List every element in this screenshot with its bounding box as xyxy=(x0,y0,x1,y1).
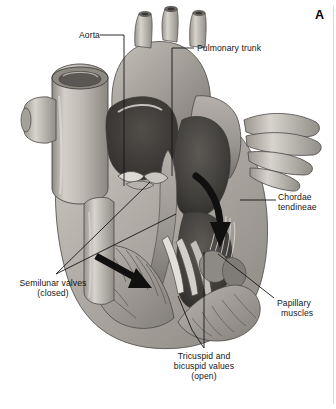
label-pulmonary-trunk: Pulmonary trunk xyxy=(197,43,261,53)
vena-cava-stub xyxy=(21,97,56,143)
aortic-branch-vessels xyxy=(135,6,206,48)
page-margin-rule xyxy=(333,6,334,404)
pulmonary-veins xyxy=(244,113,321,191)
aorta-vessel xyxy=(52,64,108,204)
label-aorta: Aorta xyxy=(66,30,100,40)
panel-letter-a: A xyxy=(315,8,324,22)
